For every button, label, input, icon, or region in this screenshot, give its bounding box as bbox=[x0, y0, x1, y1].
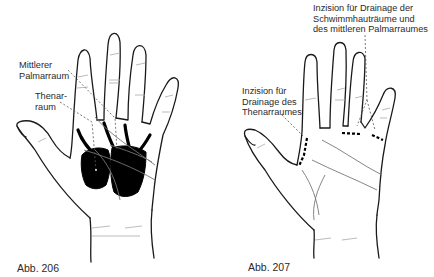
label-mittlerer-palmarraum: Mittlerer Palmarraum bbox=[19, 60, 69, 81]
label-schwimmhautraeume-incision: Inzision für Drainage der Schwimmhauträu… bbox=[313, 3, 428, 35]
hand-incision-illustration bbox=[217, 0, 434, 277]
label-thenarraum: Thenar- raum bbox=[35, 91, 67, 112]
figure-caption: Abb. 206 bbox=[17, 262, 59, 274]
figure-206: Mittlerer Palmarraum Thenar- raum Abb. 2… bbox=[0, 0, 217, 277]
label-thenar-incision: Inzision für Drainage des Thenarraumes bbox=[242, 86, 302, 118]
figure-caption: Abb. 207 bbox=[248, 261, 290, 273]
figure-207: Inzision für Drainage der Schwimmhauträu… bbox=[217, 0, 434, 277]
hand-palm-spaces-illustration bbox=[0, 0, 217, 277]
